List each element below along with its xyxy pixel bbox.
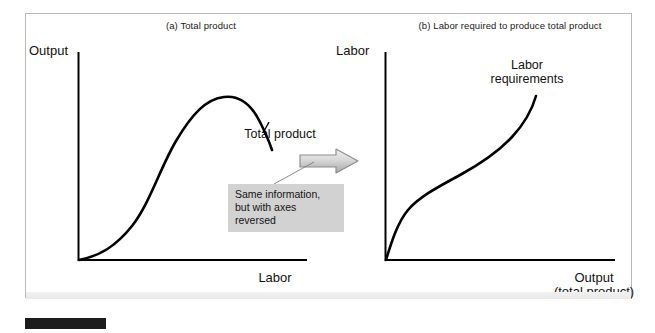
panel-b-plot — [0, 0, 655, 333]
bottom-shade-band — [26, 292, 631, 299]
caption-bar — [25, 318, 106, 329]
labor-requirements-curve — [386, 96, 536, 260]
figure-root: (a) Total product Output Labor Total pro… — [0, 0, 655, 333]
